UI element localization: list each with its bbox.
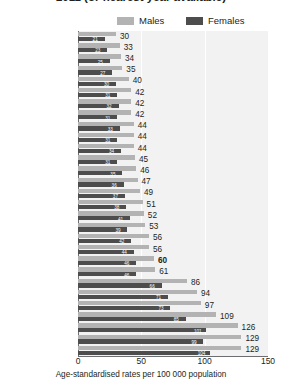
value-label: 40 <box>133 77 142 85</box>
bar-females <box>78 37 105 41</box>
bar-row: Korea10985 <box>78 311 268 322</box>
bar-males <box>78 234 149 238</box>
value-label: 44 <box>138 145 147 153</box>
bar-females <box>78 115 117 119</box>
plot-area: Switzerland3021France3323Canada3425Unite… <box>78 31 268 356</box>
bar-males <box>78 256 154 260</box>
bar-row: Greece8666 <box>78 278 268 289</box>
bar-row: Austria4231 <box>78 87 268 98</box>
bar-row: Netherlands4232 <box>78 98 268 109</box>
bar-females <box>78 328 206 332</box>
value-label: 46 <box>140 167 149 175</box>
bar-males <box>78 267 155 271</box>
value-label: 35 <box>126 66 135 74</box>
bar-females <box>78 295 168 299</box>
value-label: 51 <box>147 201 156 209</box>
bar-row: OECD6046 <box>78 255 268 266</box>
bar-females <box>78 351 210 355</box>
value-label: 86 <box>191 279 200 287</box>
bar-row: Germany4434 <box>78 143 268 154</box>
bar-row: Switzerland3021 <box>78 31 268 42</box>
value-label: 44 <box>138 133 147 141</box>
bar-row: Finland5644 <box>78 244 268 255</box>
bar-males <box>78 88 131 92</box>
legend-swatch-males-icon <box>117 17 134 25</box>
bar-females <box>78 306 170 310</box>
bar-row: Iceland4531 <box>78 154 268 165</box>
bar-row: Mexico4736 <box>78 177 268 188</box>
bar-row: Luxembourg5339 <box>78 222 268 233</box>
value-label: 33 <box>124 44 133 52</box>
bar-males <box>78 200 143 204</box>
bar-row: Denmark5642 <box>78 233 268 244</box>
bar-females <box>78 171 122 175</box>
value-label: 30 <box>120 33 129 41</box>
bar-males <box>78 110 131 114</box>
bar-males <box>78 178 138 182</box>
bar-row: Norway4433 <box>78 121 268 132</box>
bar-males <box>78 144 134 148</box>
legend-item-females: Females <box>186 14 244 28</box>
legend-swatch-females-icon <box>186 17 203 25</box>
bar-males <box>78 133 134 137</box>
bar-males <box>78 279 187 283</box>
bar-females <box>78 339 203 343</box>
bar-males <box>78 223 145 227</box>
bar-males <box>78 43 120 47</box>
bar-males <box>78 66 122 70</box>
bar-females <box>78 138 117 142</box>
bar-row: United States3527 <box>78 65 268 76</box>
x-tick-label: 50 <box>137 357 146 366</box>
bar-males <box>78 346 241 350</box>
bar-row: Slovak Republic9471 <box>78 289 268 300</box>
value-label: 44 <box>138 122 147 130</box>
bar-row: France3323 <box>78 42 268 53</box>
legend-label-males: Males <box>139 16 164 26</box>
bar-males <box>78 312 216 316</box>
value-label: 47 <box>142 178 151 186</box>
value-label: 97 <box>205 302 214 310</box>
value-label: 42 <box>135 89 144 97</box>
value-label: 42 <box>135 100 144 108</box>
bar-row: Ireland4030 <box>78 76 268 87</box>
bar-males <box>78 335 241 339</box>
bar-females <box>78 70 112 74</box>
bar-row: New Zealand4431 <box>78 132 268 143</box>
bar-females <box>78 48 107 52</box>
value-label: 45 <box>139 156 148 164</box>
bar-row: Portugal12999 <box>78 334 268 345</box>
value-label: 56 <box>153 234 162 242</box>
bar-females <box>78 93 117 97</box>
chart-legend: Males Females <box>0 14 282 28</box>
value-label: 129 <box>245 335 259 343</box>
bar-row: Canada3425 <box>78 53 268 64</box>
gridline <box>268 31 269 356</box>
value-label: 42 <box>135 111 144 119</box>
value-label: 109 <box>220 313 234 321</box>
bar-females <box>78 126 120 130</box>
bar-row: Japan6146 <box>78 266 268 277</box>
bar-females <box>78 317 186 321</box>
bar-females <box>78 149 121 153</box>
chart-title: 2011 (or nearest year available) <box>0 0 282 5</box>
value-label: 52 <box>148 212 157 220</box>
bar-males <box>78 32 116 36</box>
bar-males <box>78 211 144 215</box>
bar-row: Poland9773 <box>78 300 268 311</box>
bar-males <box>78 245 149 249</box>
bar-females <box>78 160 117 164</box>
bar-row: United Kingdom5138 <box>78 199 268 210</box>
value-label: 34 <box>125 55 134 63</box>
bar-females <box>78 59 110 63</box>
bar-row: Hungary129104 <box>78 345 268 356</box>
x-tick-label: 100 <box>198 357 212 366</box>
legend-item-males: Males <box>117 14 164 28</box>
bar-males <box>78 77 129 81</box>
value-label: 61 <box>159 268 168 276</box>
bar-males <box>78 290 197 294</box>
bar-row: Italy5241 <box>78 210 268 221</box>
value-label: 126 <box>242 324 256 332</box>
bar-females <box>78 104 119 108</box>
value-label: 53 <box>149 223 158 231</box>
bar-males <box>78 166 136 170</box>
